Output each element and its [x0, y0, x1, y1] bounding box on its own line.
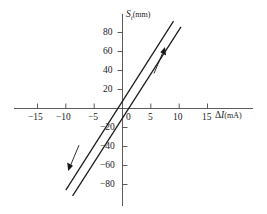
- y-tick-label-20: 20: [103, 85, 113, 95]
- y-tick-label-40: 40: [103, 66, 113, 76]
- direction-arrow-icon-lower: [67, 145, 79, 171]
- y-tick-label--20: −20: [100, 123, 115, 133]
- x-tick-label-15: 15: [202, 113, 212, 123]
- x-tick-label--15: −15: [28, 113, 43, 123]
- x-tick-label-0: 0: [126, 113, 131, 123]
- y-tick-label-80: 80: [103, 28, 113, 38]
- series-line-upper-branch: [66, 21, 174, 190]
- y-tick-label--60: −60: [100, 161, 115, 171]
- x-tick-label-10: 10: [173, 113, 183, 123]
- y-axis-title: Si(mm): [126, 10, 150, 22]
- x-tick-label-5: 5: [148, 113, 153, 123]
- y-tick-label--40: −40: [100, 142, 115, 152]
- hysteresis-chart-figure: −15 −10 −5 0 5 10 15 80 60 40 20 −20 −40…: [0, 0, 267, 214]
- y-tick-label-60: 60: [103, 47, 113, 57]
- x-axis-title-unit: (mA): [224, 111, 241, 120]
- x-tick-label--10: −10: [56, 113, 71, 123]
- plot-canvas: [0, 0, 267, 214]
- x-axis-title: ΔI(mA): [215, 111, 242, 121]
- y-axis-title-unit: (mm): [133, 10, 151, 19]
- x-tick-label--5: −5: [88, 113, 98, 123]
- y-tick-label--80: −80: [100, 180, 115, 190]
